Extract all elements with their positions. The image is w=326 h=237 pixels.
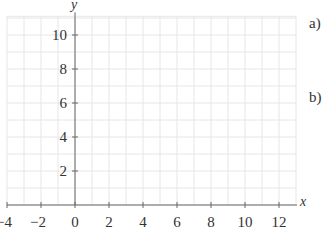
x-tick-label: 4 [139, 214, 147, 230]
y-tick-label: 6 [60, 95, 68, 111]
x-axis-label: x [300, 194, 306, 210]
axes [7, 12, 297, 205]
x-tick-label: −4 [0, 214, 12, 230]
x-tick-label: 10 [238, 214, 253, 230]
x-tick-label: 0 [71, 214, 79, 230]
y-tick-label: 2 [60, 163, 68, 179]
x-tick-label: 8 [207, 214, 215, 230]
y-tick-label: 8 [60, 61, 68, 77]
part-a-label: a) [309, 15, 321, 32]
y-axis-label: y [71, 0, 77, 13]
x-tick-label: 12 [272, 214, 287, 230]
x-tick-label: −2 [30, 214, 46, 230]
x-tick-label: 6 [173, 214, 181, 230]
y-tick-label: 4 [60, 129, 68, 145]
y-tick-label: 10 [52, 27, 67, 43]
grid-lines [7, 16, 296, 205]
x-tick-label: 2 [105, 214, 113, 230]
coordinate-grid: −4−2024681012246810 [0, 0, 326, 237]
part-b-label: b) [309, 89, 322, 106]
